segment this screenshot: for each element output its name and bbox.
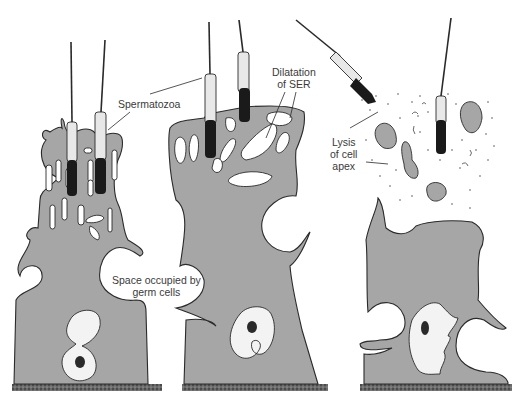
label-space-line2: germ cells [112, 286, 201, 298]
label-lysis-of-cell-apex: Lysis of cell apex [330, 136, 357, 172]
label-lysis-line1: Lysis [330, 136, 357, 148]
panel-stage-1 [12, 40, 162, 391]
label-lysis-line2: of cell [330, 148, 357, 160]
label-space-line1: Space occupied by [112, 274, 201, 286]
lysed-fragments [375, 102, 482, 201]
label-dilatation-line2: of SER [272, 78, 316, 90]
basement-membrane [12, 384, 162, 391]
leader-lysis-1 [350, 112, 378, 128]
spermatozoon-2a [205, 22, 216, 158]
leader-lysis-2 [366, 162, 388, 164]
spermatozoon-1a [67, 42, 77, 196]
leader-spermatozoa-1 [108, 112, 130, 130]
basement-membrane [182, 384, 328, 391]
leader-spermatozoa-2 [150, 78, 202, 94]
spermatozoon-3b [436, 18, 451, 154]
spermatozoon-3a [296, 20, 376, 104]
label-dilatation-line1: Dilatation [272, 66, 316, 78]
label-space-occupied: Space occupied by germ cells [112, 274, 201, 298]
basement-membrane [360, 384, 512, 391]
sertoli-cell-figure: Spermatozoa Dilatation of SER Lysis of c… [0, 0, 530, 404]
panel-stage-3 [296, 18, 512, 391]
nucleolus [75, 356, 85, 368]
label-dilatation-of-ser: Dilatation of SER [272, 66, 316, 90]
label-spermatozoa: Spermatozoa [118, 98, 180, 110]
spermatozoon-1b [95, 40, 106, 194]
label-lysis-line3: apex [330, 160, 357, 172]
nucleolus [421, 321, 429, 335]
nucleolus [247, 321, 257, 333]
spermatozoon-2b [238, 20, 250, 122]
diagram-canvas [0, 0, 530, 404]
